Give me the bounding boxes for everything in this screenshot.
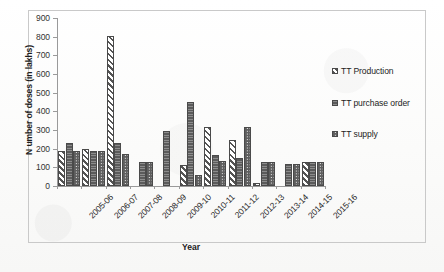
x-tick-mark [57,186,58,189]
x-tick-mark [276,186,277,189]
y-tick-label: 400 [36,106,50,116]
bar [90,151,97,186]
bar [236,158,243,186]
x-tick-mark [154,186,155,189]
x-tick-mark [203,186,204,189]
bar [180,165,187,186]
bar [107,36,114,186]
bar [163,131,170,186]
bar-group [106,18,130,186]
legend-item: TT Production [332,66,424,77]
y-tick-label: 600 [36,69,50,79]
x-tick-mark [228,186,229,189]
x-tick-mark [325,186,326,189]
x-axis-title: Year [182,242,200,252]
bar-group [301,18,325,186]
y-tick-label: 700 [36,50,50,60]
x-axis-line [57,186,325,187]
bar [146,162,153,186]
bar [302,162,309,186]
plot-area: 0100200300400500600700800900 2005-062006… [57,18,325,186]
x-tick-mark [130,186,131,189]
bar [98,151,105,186]
y-tick-label: 0 [45,181,50,191]
bar-group [203,18,227,186]
legend-label: TT Production [341,66,394,77]
bar [219,161,226,186]
bar [58,151,65,186]
y-tick-label: 500 [36,88,50,98]
bar [212,155,219,186]
bar [73,151,80,186]
bar [187,102,194,186]
bar [261,162,268,186]
x-tick-mark [301,186,302,189]
y-tick-label: 100 [36,162,50,172]
y-tick-label: 200 [36,144,50,154]
x-tick-mark [106,186,107,189]
bar-group [252,18,276,186]
bar [66,143,73,186]
y-tick-label: 800 [36,32,50,42]
legend-swatch [332,131,338,137]
bar [268,162,275,186]
bar [293,164,300,186]
x-tick-mark [179,186,180,189]
bar-group [179,18,203,186]
legend-label: TT purchase order [341,98,410,109]
bar-group [81,18,105,186]
bar [317,162,324,186]
bar [253,183,260,186]
bar [82,149,89,186]
x-tick-mark [81,186,82,189]
bar [122,154,129,186]
y-tick-label: 900 [36,13,50,23]
legend-swatch [332,68,338,74]
bar-group [130,18,154,186]
bar [195,175,202,186]
bar [309,162,316,186]
bar [204,127,211,186]
bar-group [276,18,300,186]
bar-group [228,18,252,186]
bar-group [57,18,81,186]
y-tick-label: 300 [36,125,50,135]
bar-group [154,18,178,186]
chart-legend: TT ProductionTT purchase orderTT supply [332,66,424,161]
bar [285,164,292,186]
bar [139,162,146,186]
legend-swatch [332,100,338,106]
bar [244,127,251,186]
x-tick-mark [252,186,253,189]
y-axis-title: N umber of doses (in lakhs) [24,45,34,155]
bar [114,143,121,186]
bar [229,140,236,186]
chart-figure: N umber of doses (in lakhs) Year 0100200… [0,0,444,272]
legend-label: TT supply [341,129,378,140]
legend-item: TT purchase order [332,98,424,109]
legend-item: TT supply [332,129,424,140]
